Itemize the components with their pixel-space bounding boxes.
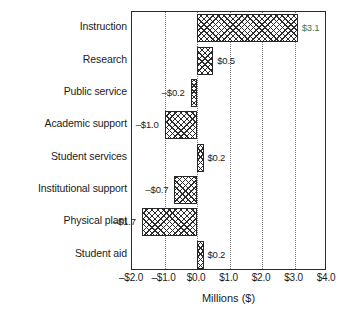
bar-value-label: $3.1 (302, 23, 320, 33)
x-axis-tick-label: $2.0 (252, 272, 271, 284)
bar (197, 241, 204, 269)
y-axis-label: Public service (3, 86, 127, 97)
y-axis-label: Research (3, 54, 127, 65)
bar (197, 47, 213, 75)
x-axis-tick-label: $4.0 (317, 272, 336, 284)
x-axis-tick-label: –$2.0 (119, 272, 143, 284)
x-axis-title: Millions ($) (131, 292, 326, 305)
plot-area: $3.1$0.5–$0.2–$1.0$0.2–$0.7–$1.7$0.2 (131, 11, 326, 270)
bar-value-label: $0.5 (217, 56, 235, 66)
bar (197, 144, 204, 172)
bar-value-label: $0.2 (208, 250, 226, 260)
y-axis-label: Physical plant (3, 215, 127, 226)
plot-inner: $3.1$0.5–$0.2–$1.0$0.2–$0.7–$1.7$0.2 (132, 12, 325, 269)
bar-value-label: –$0.7 (145, 185, 168, 195)
bar (165, 111, 198, 139)
bar-value-label: $0.2 (208, 153, 226, 163)
bar-chart: InstructionResearchPublic serviceAcademi… (0, 0, 348, 318)
y-axis-label: Academic support (3, 118, 127, 129)
y-axis-label: Institutional support (3, 183, 127, 194)
gridline (230, 12, 231, 269)
bar (197, 14, 298, 42)
x-axis-tick-label: $0.0 (187, 272, 206, 284)
bar-value-label: –$0.2 (162, 88, 185, 98)
gridline (295, 12, 296, 269)
x-axis-tick-labels: –$2.0–$1.0$0.0$1.0$2.0$3.0$4.0 (131, 272, 326, 288)
gridline (262, 12, 263, 269)
x-axis-tick-label: $3.0 (284, 272, 303, 284)
bar-value-label: –$1.0 (136, 120, 159, 130)
bar (174, 176, 197, 204)
x-axis-tick-label: $1.0 (219, 272, 238, 284)
bar (191, 79, 198, 107)
y-axis-category-labels: InstructionResearchPublic serviceAcademi… (0, 0, 127, 318)
x-axis-tick-label: –$1.0 (151, 272, 175, 284)
y-axis-label: Student aid (3, 248, 127, 259)
y-axis-label: Student services (3, 151, 127, 162)
bar-value-label: –$1.7 (113, 217, 136, 227)
y-axis-label: Instruction (3, 21, 127, 32)
bar (142, 208, 197, 236)
